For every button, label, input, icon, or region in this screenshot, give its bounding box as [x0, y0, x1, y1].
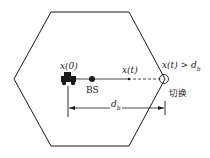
current-position-dot [128, 78, 130, 80]
handover-point-circle [160, 75, 169, 84]
arrowhead-right-icon [158, 106, 164, 110]
vehicle-icon [61, 72, 76, 85]
cell-diagram [0, 0, 210, 158]
start-position-label: x(0) [60, 62, 78, 71]
distance-label: db [110, 100, 122, 111]
arrowhead-left-icon [69, 106, 75, 110]
current-position-label: x(t) [122, 66, 138, 75]
handover-label: 切换 [169, 89, 187, 98]
handover-condition-label: x(t) > db [162, 61, 201, 72]
base-station-label: BS [86, 86, 99, 95]
base-station-dot [89, 76, 95, 82]
